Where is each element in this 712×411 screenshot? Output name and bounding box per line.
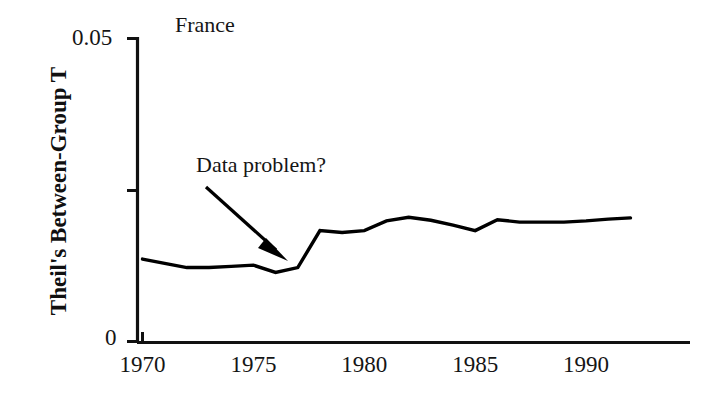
annotation-label: Data problem? bbox=[196, 152, 326, 178]
x-tick-label-1985: 1985 bbox=[452, 352, 498, 378]
x-tick-label-1975: 1975 bbox=[230, 352, 276, 378]
chart-figure: Theil's Between-Group T France Data prob… bbox=[0, 0, 712, 411]
y-tick-label-top: 0.05 bbox=[72, 25, 112, 51]
x-tick-label-1990: 1990 bbox=[563, 352, 609, 378]
y-axis-label: Theil's Between-Group T bbox=[46, 46, 72, 336]
y-axis-label-container: Theil's Between-Group T bbox=[0, 0, 60, 411]
x-tick-label-1980: 1980 bbox=[341, 352, 387, 378]
series-title-label: France bbox=[175, 12, 235, 38]
y-tick-label-bottom: 0 bbox=[105, 325, 117, 351]
data-series-line bbox=[143, 217, 631, 272]
annotation-arrow bbox=[206, 187, 288, 261]
x-tick-label-1970: 1970 bbox=[120, 352, 166, 378]
